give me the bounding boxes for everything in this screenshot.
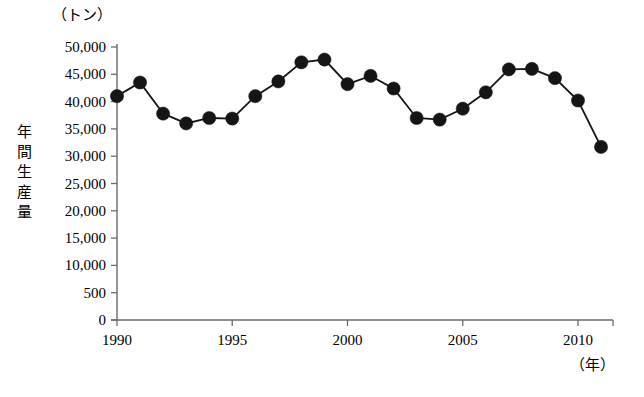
data-point-marker xyxy=(133,76,146,89)
data-point-marker xyxy=(341,78,354,91)
data-point-marker xyxy=(226,112,239,125)
data-point-marker xyxy=(272,75,285,88)
data-point-marker xyxy=(318,53,331,66)
data-point-marker xyxy=(456,102,469,115)
data-point-marker xyxy=(410,111,423,124)
line-plot-canvas xyxy=(0,0,644,397)
data-point-marker xyxy=(571,94,584,107)
data-point-marker xyxy=(479,86,492,99)
data-point-marker xyxy=(525,62,538,75)
data-point-marker xyxy=(548,72,561,85)
data-point-marker xyxy=(249,90,262,103)
data-point-marker xyxy=(295,56,308,69)
data-series-group xyxy=(110,53,607,154)
data-point-marker xyxy=(110,90,123,103)
data-point-marker xyxy=(594,140,607,153)
data-point-marker xyxy=(387,82,400,95)
data-point-marker xyxy=(502,63,515,76)
data-point-marker xyxy=(180,117,193,130)
data-point-marker xyxy=(433,113,446,126)
data-point-marker xyxy=(203,111,216,124)
chart-figure: （トン） 年間生産量 050010,00015,00020,00025,0003… xyxy=(0,0,644,397)
axes-group xyxy=(111,44,613,326)
data-point-marker xyxy=(157,107,170,120)
data-point-marker xyxy=(364,69,377,82)
